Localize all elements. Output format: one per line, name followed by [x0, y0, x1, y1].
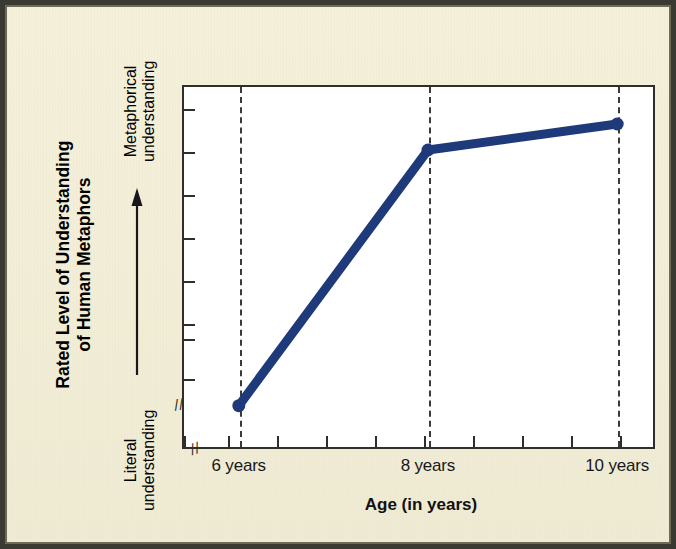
x-axis-tick: [424, 436, 426, 447]
plot-area: [182, 85, 655, 449]
x-axis-tick: [228, 436, 230, 447]
x-axis-tick: [184, 436, 186, 447]
x-axis-tick: [571, 436, 573, 447]
y-axis-tick: [184, 109, 195, 111]
y-axis-tick: [184, 281, 195, 283]
y-axis-tick: [184, 379, 195, 381]
y-axis-high-anchor-line1: Metaphorical: [122, 26, 140, 196]
x-tick-label-10-years: 10 years: [585, 456, 649, 476]
y-axis-high-anchor-line2: understanding: [140, 26, 158, 196]
x-axis-tick: [522, 436, 524, 447]
x-axis-tick: [473, 436, 475, 447]
y-axis-low-anchor-line2: understanding: [140, 375, 158, 545]
x-axis-tick: [326, 436, 328, 447]
y-axis-tick: [184, 195, 195, 197]
y-axis-tick: [184, 238, 195, 240]
x-axis-title: Age (in years): [365, 495, 477, 515]
x-axis-tick: [375, 436, 377, 447]
y-axis-high-anchor-label: Metaphorical understanding: [122, 26, 159, 196]
y-axis-title: Rated Level of Understanding of Human Me…: [53, 100, 94, 430]
y-axis-low-anchor-line1: Literal: [122, 375, 140, 545]
y-axis-title-line2: of Human Metaphors: [74, 100, 95, 430]
y-axis-tick: [184, 324, 195, 326]
gridline-10-years: [618, 87, 620, 447]
gridline-6-years: [240, 87, 242, 447]
x-tick-label-8-years: 8 years: [401, 456, 455, 476]
x-axis-tick: [620, 436, 622, 447]
y-axis-low-anchor-label: Literal understanding: [122, 375, 159, 545]
x-tick-label-6-years: 6 years: [212, 456, 266, 476]
x-axis-tick: [277, 436, 279, 447]
y-axis-title-line1: Rated Level of Understanding: [53, 100, 74, 430]
gridline-8-years: [429, 87, 431, 447]
y-axis-tick: [184, 152, 195, 154]
y-axis-tick: [184, 339, 195, 341]
figure-container: // // 6 years 8 years 10 years Age (in y…: [0, 0, 676, 549]
